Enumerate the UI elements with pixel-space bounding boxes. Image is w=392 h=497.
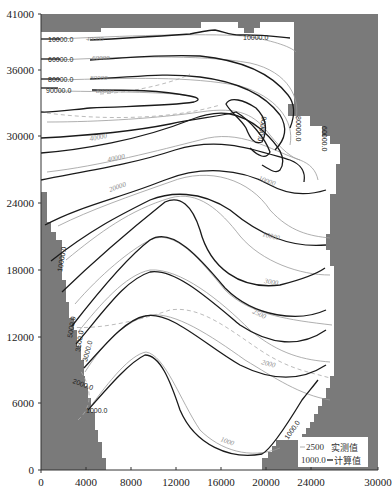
x-tick-16000: 16000 (207, 476, 235, 488)
label-80000-right: 80000.0 (295, 116, 302, 141)
label-60000-right: 60000.0 (321, 126, 328, 151)
legend-obs-label: 实测值 (331, 442, 358, 453)
x-tick-20000: 20000 (252, 476, 280, 488)
y-tick-41000: 41000 (7, 8, 35, 20)
x-tick-0: 0 (38, 476, 44, 488)
y-tick-24000: 24000 (7, 197, 35, 209)
label-60000: 60000.0 (48, 56, 73, 63)
label-obs-60000: 60000 (92, 54, 110, 62)
label-80000: 80000.0 (48, 76, 73, 83)
x-tick-8000: 8000 (120, 476, 143, 488)
legend-obs-sample: 2500 (306, 442, 325, 452)
label-90000: 90000.0 (46, 87, 71, 94)
y-tick-18000: 18000 (7, 264, 35, 276)
label-10000-top-right: 10000.0 (243, 34, 268, 41)
y-tick-6000: 6000 (12, 397, 35, 409)
label-obs-80000b: 80000 (96, 87, 114, 95)
label-obs-80000: 80000 (90, 74, 108, 82)
contour-chart: 10000.0 60000.0 80000.0 90000.0 10000.0 … (0, 0, 392, 497)
legend-calc-sample: 1000.0 (301, 455, 326, 465)
y-tick-12000: 12000 (7, 331, 35, 343)
y-tick-labels: 0 6000 12000 18000 24000 30000 36000 410… (7, 8, 35, 476)
x-tick-labels: 0 4000 8000 12000 16000 20000 24000 3000… (38, 476, 392, 488)
y-tick-36000: 36000 (7, 64, 35, 76)
x-tick-30000: 30000 (364, 476, 392, 488)
label-1000-left: 1000.0 (86, 407, 108, 414)
x-tick-4000: 4000 (75, 476, 98, 488)
x-tick-12000: 12000 (162, 476, 190, 488)
label-10000-top-left: 10000.0 (48, 36, 73, 43)
x-tick-24000: 24000 (297, 476, 325, 488)
label-obs-40000: 40000 (86, 35, 104, 43)
y-tick-0: 0 (29, 464, 35, 476)
y-tick-30000: 30000 (7, 130, 35, 142)
legend-calc-label: 计算值 (334, 455, 361, 466)
